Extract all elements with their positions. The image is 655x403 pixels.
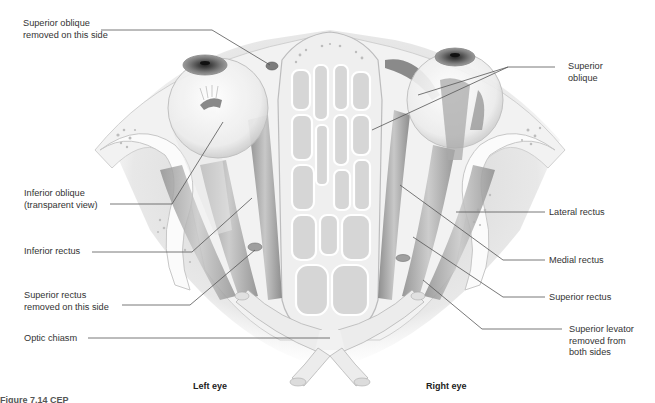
label-superior-rectus-removed: Superior rectus removed on this side: [24, 290, 109, 313]
anatomy-illustration: [0, 0, 655, 403]
label-superior-rectus: Superior rectus: [549, 292, 611, 304]
label-superior-levator: Superior levator removed from both sides: [569, 324, 634, 359]
right-eye-label: Right eye: [426, 381, 467, 391]
label-inferior-rectus: Inferior rectus: [24, 246, 80, 258]
label-medial-rectus: Medial rectus: [549, 255, 604, 267]
ethmoid-bone: [278, 32, 382, 340]
left-eye-label: Left eye: [193, 381, 227, 391]
label-lateral-rectus: Lateral rectus: [549, 207, 605, 219]
figure-caption: Figure 7.14 CEP: [0, 395, 69, 403]
label-superior-oblique: Superior oblique: [568, 61, 603, 84]
label-superior-oblique-removed: Superior oblique removed on this side: [23, 18, 108, 41]
label-inferior-oblique: Inferior oblique (transparent view): [24, 188, 98, 211]
label-optic-chiasm: Optic chiasm: [24, 333, 77, 345]
